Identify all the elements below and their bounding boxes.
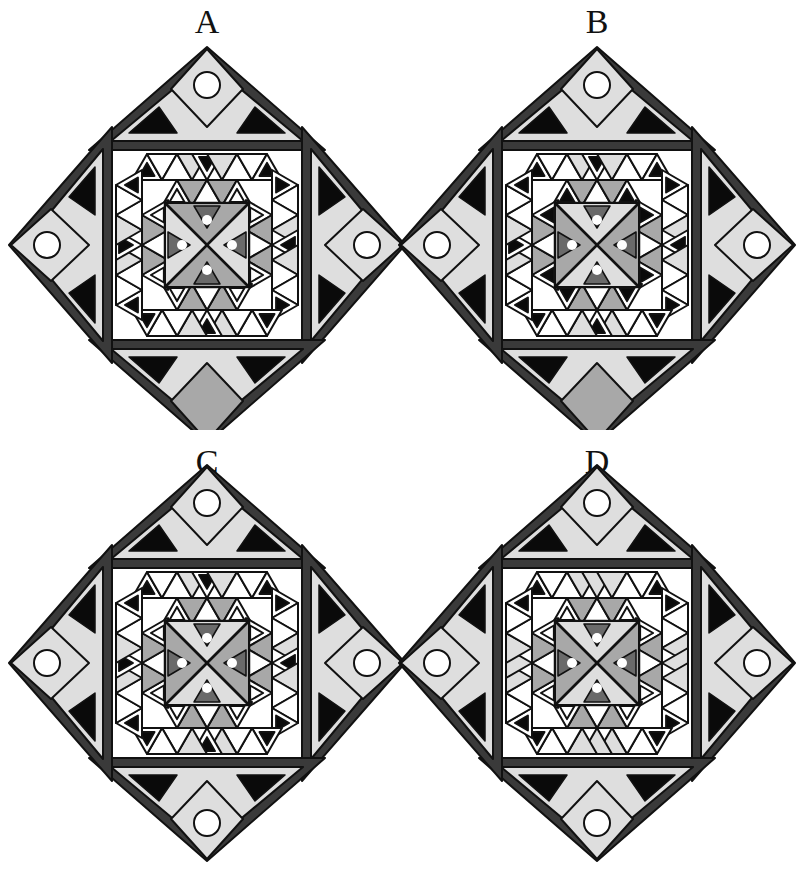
- option-d[interactable]: D: [397, 440, 797, 870]
- option-a[interactable]: A: [7, 0, 407, 430]
- pattern-figure-a: [7, 0, 407, 430]
- option-c[interactable]: C: [7, 440, 407, 870]
- pattern-figure-c: [7, 440, 407, 870]
- pattern-figure-b: [397, 0, 797, 430]
- pattern-figure-d: [397, 440, 797, 870]
- option-b[interactable]: B: [397, 0, 797, 430]
